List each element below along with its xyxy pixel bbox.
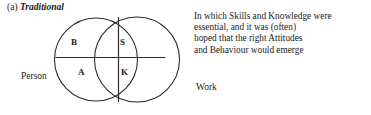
work-label: Work <box>196 83 217 93</box>
description-text: In which Skills and Knowledge were essen… <box>194 11 369 56</box>
figure-traditional: (a) Traditional B S A K Person Work In w… <box>0 0 371 115</box>
person-label: Person <box>21 72 47 82</box>
description-line-1: In which Skills and Knowledge were <box>194 11 369 22</box>
quadrant-label-knowledge: K <box>121 68 128 77</box>
quadrant-label-behaviour: B <box>71 38 77 47</box>
quadrant-label-skills: S <box>120 38 125 47</box>
description-line-4: and Behaviour would emerge <box>194 45 369 56</box>
description-line-3: hoped that the right Attitudes <box>194 33 369 44</box>
quadrant-label-attitudes: A <box>78 68 85 77</box>
person-circle <box>55 18 138 101</box>
description-line-2: essential, and it was (often) <box>194 22 369 33</box>
